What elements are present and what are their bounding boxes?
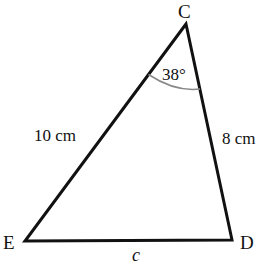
- side-label-ce: 10 cm: [34, 127, 76, 144]
- vertex-label-d: D: [240, 233, 254, 252]
- angle-label-c: 38°: [162, 66, 186, 83]
- side-label-cd: 8 cm: [222, 130, 256, 147]
- vertex-label-e: E: [3, 233, 15, 252]
- triangle-diagram: C E D 38° 10 cm 8 cm c: [0, 0, 273, 270]
- side-label-ed: c: [132, 246, 140, 264]
- vertex-label-c: C: [178, 2, 191, 21]
